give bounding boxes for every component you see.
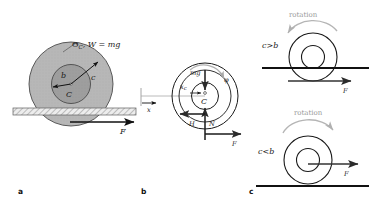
panel-c-case-1-rotation-arc	[288, 21, 337, 33]
panel-letter-c: c	[249, 187, 253, 196]
panel-letter-b: b	[141, 187, 147, 196]
panel-a-weight-text: , W = mg	[83, 40, 121, 49]
panel-b-center-label: C	[201, 97, 207, 106]
panel-a-radius-b-label: b	[61, 71, 66, 80]
panel-b-force-F-label: F	[231, 140, 237, 148]
panel-c-case-2-inner-circle	[297, 149, 320, 172]
panel-b-center-point	[204, 92, 207, 95]
panel-b-phi-label: φ	[224, 76, 229, 84]
panel-c-case-1-inner-circle	[302, 46, 325, 69]
panel-c-case-1: rotation F c>b	[262, 11, 369, 95]
panel-c-case-2-force-label: F	[343, 170, 349, 178]
panel-c-case-2-condition: c<b	[258, 147, 274, 156]
panel-a-force-F-label: F	[119, 127, 126, 136]
panel-b-friction-label: H	[188, 120, 195, 128]
panel-c-case-1-outer-circle	[289, 33, 337, 81]
panel-c-case-2: rotation F c<b c	[249, 109, 369, 196]
physics-spool-figure: c b C ΘC, W = mg F a x C	[0, 0, 369, 208]
panel-a-radius-c-label: c	[91, 73, 96, 82]
panel-b-xc-label: xc	[180, 83, 187, 91]
panel-c-case-2-cond-b: b	[269, 147, 274, 156]
panel-c-case-1-cond-b: b	[273, 41, 278, 50]
panel-b-x-label: x	[147, 106, 151, 114]
panel-c-case-1-rotation-label: rotation	[289, 11, 318, 19]
panel-c-case-1-cond-op: >	[266, 41, 273, 50]
panel-c-case-2-cond-op: <	[262, 147, 269, 156]
panel-b-normal-label: N	[208, 120, 215, 128]
panel-a-center-label: C	[66, 90, 72, 99]
panel-c-case-2-rotation-arc	[283, 120, 333, 133]
panel-b-xc-subscript: c	[184, 85, 187, 91]
panel-a-ground	[13, 108, 136, 115]
panel-b: x C xc mg N H F φ b	[141, 63, 241, 196]
panel-c-case-2-rotation-label: rotation	[294, 109, 323, 117]
panel-a-theta-weight-label: ΘC, W = mg	[72, 40, 121, 50]
panel-b-weight-label: mg	[190, 69, 200, 77]
panel-c-case-1-condition: c>b	[262, 41, 278, 50]
panel-c-case-2-outer-circle	[284, 136, 332, 184]
panel-c-case-1-force-label: F	[342, 87, 348, 95]
panel-letter-a: a	[18, 187, 23, 196]
panel-a: c b C ΘC, W = mg F a	[13, 40, 136, 196]
